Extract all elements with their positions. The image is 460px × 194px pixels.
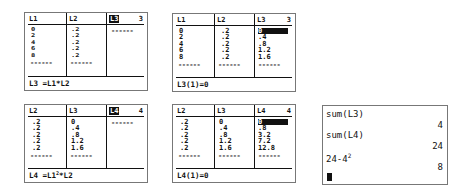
header-divider (28, 116, 144, 117)
expression-text: 24-4 (326, 154, 348, 164)
cell[interactable]: .2 (32, 145, 40, 151)
entry-line[interactable]: L4 =L12*L2 (29, 169, 73, 180)
column-header-l3-selected[interactable]: L3 (109, 15, 119, 23)
column-header-l1[interactable]: L1 (177, 16, 185, 24)
cell[interactable]: 4 (31, 40, 35, 45)
formula-text: *L2 (59, 171, 73, 180)
empty-list-dashes: ------ (111, 119, 133, 127)
column-values-l1: 0 2 4 6 8 (179, 28, 183, 60)
cell[interactable]: 8 (31, 53, 35, 58)
column-divider (106, 13, 107, 76)
list-editor-screen-3: L2 L3 L4 4 .2 .2 .2 .2 .2 0 .4 .8 1.2 1.… (24, 104, 148, 183)
column-header-l3[interactable]: L3 (217, 107, 225, 115)
list-editor-screen-1: L1 L2 L3 3 0 2 4 6 8 .2 .2 .2 .2 .2 ----… (24, 12, 148, 91)
exponent: 2 (348, 152, 352, 159)
column-values-l1: 0 2 4 6 8 (31, 27, 35, 59)
header-divider (28, 24, 144, 25)
cell[interactable]: .2 (71, 27, 79, 32)
cell[interactable]: 2 (31, 33, 35, 38)
cell[interactable]: .2 (71, 46, 79, 51)
footer-divider (176, 77, 292, 78)
end-of-list-dashes: ------ (178, 61, 200, 69)
column-values-l2: .2 .2 .2 .2 .2 (32, 119, 40, 151)
column-divider (66, 105, 67, 168)
cell[interactable]: 8 (179, 54, 183, 60)
home-input: sum(L3) (326, 109, 364, 119)
column-number: 4 (139, 107, 143, 115)
cell[interactable]: 12.8 (258, 145, 288, 151)
home-screen: sum(L3) 4 sum(L4) 24 24-42 8 (322, 105, 448, 185)
list-editor-screen-4: L2 L3 L4 4 .2 .2 .2 .2 .2 0 .4 .8 1.2 1.… (172, 104, 296, 183)
column-header-l4-selected[interactable]: L4 (109, 107, 119, 115)
entry-line[interactable]: L3 =L1*L2 (29, 79, 70, 88)
formula-text: L4 =L1 (29, 171, 56, 180)
home-result: 24 (432, 141, 443, 151)
cell[interactable]: .2 (71, 40, 79, 45)
entry-line[interactable]: L4(1)=0 (177, 171, 209, 180)
home-result: 8 (438, 162, 443, 172)
home-input: 24-42 (326, 151, 351, 164)
column-values-l3: 0 .4 .8 1.2 1.6 (258, 28, 288, 60)
cell[interactable]: 0 (31, 27, 35, 32)
column-values-l2: .2 .2 .2 .2 .2 (71, 27, 79, 59)
cell[interactable]: .2 (71, 33, 79, 38)
header-divider (176, 116, 292, 117)
end-of-list-dashes: ------ (30, 59, 52, 67)
column-number: 4 (287, 107, 291, 115)
column-header-l3[interactable]: L3 (69, 107, 77, 115)
column-header-l2[interactable]: L2 (29, 107, 37, 115)
cell[interactable]: 1.6 (258, 54, 288, 60)
column-header-l4[interactable]: L4 (257, 107, 265, 115)
column-values-l3: 0 .4 .8 1.2 1.6 (71, 119, 84, 151)
cell[interactable]: 1.6 (71, 145, 84, 151)
cell[interactable]: .2 (221, 54, 229, 60)
home-input: sum(L4) (326, 130, 364, 140)
header-divider (176, 25, 292, 26)
column-divider (66, 13, 67, 76)
end-of-list-dashes: ------ (218, 61, 240, 69)
end-of-list-dashes: ------ (70, 59, 92, 67)
footer-divider (28, 76, 144, 77)
end-of-list-dashes: ------ (258, 61, 280, 69)
column-header-l2[interactable]: L2 (177, 107, 185, 115)
column-header-l2[interactable]: L2 (69, 15, 77, 23)
cell[interactable]: 6 (31, 46, 35, 51)
column-divider (214, 105, 215, 168)
end-of-list-dashes: ------ (178, 152, 200, 160)
cursor[interactable] (327, 173, 332, 181)
column-divider (254, 105, 255, 168)
empty-list-dashes: ------ (111, 27, 133, 35)
column-header-l1[interactable]: L1 (29, 15, 37, 23)
column-number: 3 (287, 16, 291, 24)
list-editor-screen-2: L1 L2 L3 3 0 2 4 6 8 .2 .2 .2 .2 .2 0 .4… (172, 13, 296, 92)
column-header-l2[interactable]: L2 (217, 16, 225, 24)
end-of-list-dashes: ------ (30, 152, 52, 160)
footer-divider (176, 168, 292, 169)
end-of-list-dashes: ------ (218, 152, 240, 160)
entry-line[interactable]: L3(1)=0 (177, 80, 209, 89)
cell[interactable]: 1.6 (219, 145, 232, 151)
end-of-list-dashes: ------ (258, 152, 280, 160)
cell[interactable]: .2 (71, 53, 79, 58)
column-values-l4: 0 .8 3.2 7.2 12.8 (258, 119, 288, 151)
cell[interactable]: .2 (180, 145, 188, 151)
column-values-l3: 0 .4 .8 1.2 1.6 (219, 119, 232, 151)
column-number: 3 (139, 15, 143, 23)
home-result: 4 (438, 120, 443, 130)
column-header-l3[interactable]: L3 (257, 16, 265, 24)
column-divider (254, 14, 255, 77)
column-values-l2: .2 .2 .2 .2 .2 (221, 28, 229, 60)
column-divider (214, 14, 215, 77)
column-values-l2: .2 .2 .2 .2 .2 (180, 119, 188, 151)
column-divider (106, 105, 107, 168)
end-of-list-dashes: ------ (70, 152, 92, 160)
